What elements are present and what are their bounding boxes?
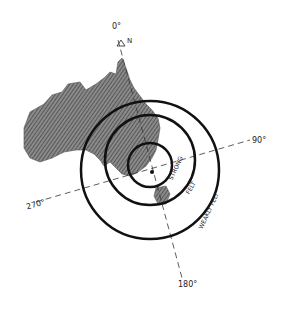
north-marker-label: N [127, 37, 132, 45]
seismic-intensity-map [0, 0, 285, 319]
bearing-north-label: 0° [112, 22, 121, 31]
bearing-south-label: 180° [178, 280, 197, 289]
bearing-east-label: 90° [252, 136, 266, 145]
epicentre-marker [150, 170, 154, 174]
